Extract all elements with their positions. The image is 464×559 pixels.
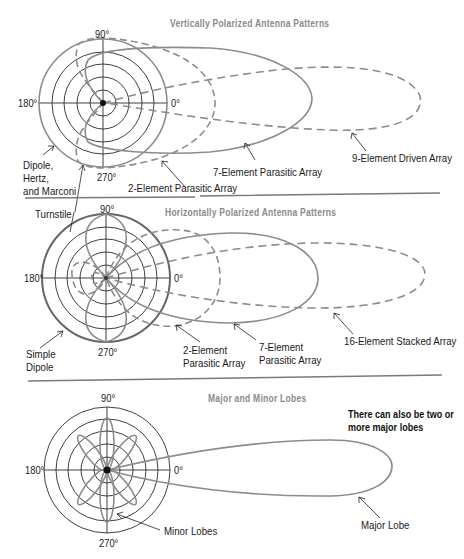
center-dot-3 xyxy=(104,467,111,474)
panel-lobes-arrows xyxy=(117,497,380,530)
label-h-2-element-parasitic: 2-Element Parasitic Array xyxy=(183,344,245,370)
panel-lobes-title: Major and Minor Lobes xyxy=(208,393,306,404)
angle-180: 180° xyxy=(18,97,37,109)
label-minor-lobes: Minor Lobes xyxy=(164,525,217,538)
angle-270: 270° xyxy=(98,346,117,358)
label-h-7-element-parasitic: 7-Element Parasitic Array xyxy=(259,341,321,367)
label-7-element-parasitic: 7-Element Parasitic Array xyxy=(213,166,322,179)
label-16-element-stacked: 16-Element Stacked Array xyxy=(344,335,456,348)
divider-2 xyxy=(28,375,442,381)
panel-vertical-title: Vertically Polarized Antenna Patterns xyxy=(170,18,329,29)
angle-0: 0° xyxy=(174,272,183,284)
label-2-element-parasitic: 2-Element Parasitic Array xyxy=(128,182,237,195)
angle-0: 0° xyxy=(174,464,183,476)
angle-180: 180° xyxy=(24,272,43,284)
angle-90: 90° xyxy=(100,203,114,215)
angle-270: 270° xyxy=(97,171,116,183)
label-9-element-driven: 9-Element Driven Array xyxy=(352,152,452,165)
angle-180: 180° xyxy=(25,464,44,476)
angle-90: 90° xyxy=(101,392,115,404)
label-dipole-hertz-marconi: Dipole, Hertz, and Marconi xyxy=(23,159,76,198)
major-lobe-pattern xyxy=(107,440,392,496)
angle-270: 270° xyxy=(99,537,118,549)
label-turnstile: Turnstile xyxy=(35,208,72,221)
label-simple-dipole: Simple Dipole xyxy=(26,348,56,374)
angle-90: 90° xyxy=(95,28,109,40)
note-multiple-major-lobes: There can also be two or more major lobe… xyxy=(348,408,454,434)
antenna-pattern-diagrams xyxy=(0,0,464,559)
center-dot xyxy=(100,100,106,106)
center-dot-2 xyxy=(104,276,108,280)
angle-0: 0° xyxy=(171,97,180,109)
sixteen-element-pattern xyxy=(106,243,425,308)
panel-horizontal-title: Horizontally Polarized Antenna Patterns xyxy=(165,207,336,218)
label-major-lobe: Major Lobe xyxy=(361,519,409,532)
seven-element-pattern xyxy=(85,47,312,153)
